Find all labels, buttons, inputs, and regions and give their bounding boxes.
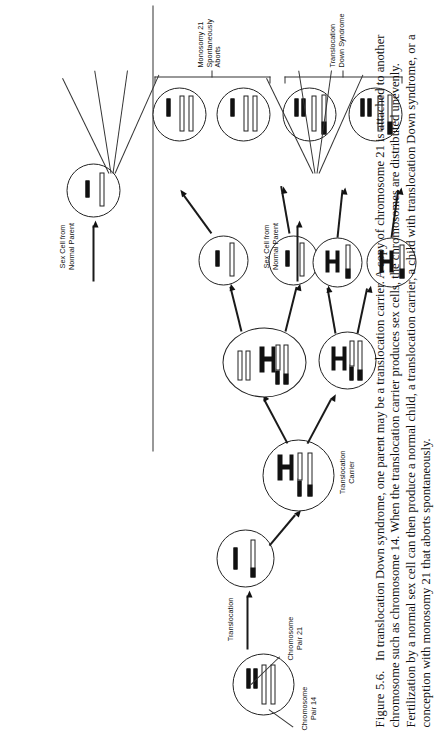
ztd2-chromosome-21a: [360, 98, 364, 116]
figure-diagram: Chromosome Pair 14 Chromosome Pair 21 Tr…: [0, 0, 372, 733]
ztd1-chromosome-14a: [311, 95, 316, 131]
translocated-chromosome-meiosis-lower: [331, 346, 346, 370]
ztd2-chromosome-21b: [367, 98, 371, 116]
arrow-to-carrier-line: [268, 514, 295, 546]
carrier-branch-lower-line: [306, 398, 331, 443]
gamete2-line: [284, 286, 297, 331]
chromosome-14c-upper: [237, 350, 242, 380]
translocation-arrow-line: [246, 595, 248, 649]
zygote-u3-head: [341, 187, 348, 195]
figure-caption-text: In translocation Down syndrome, one pare…: [372, 34, 432, 727]
label-translocation: Translocation: [226, 587, 235, 651]
brace-monosomy: [154, 69, 270, 83]
normal-gamete-upper-arrowhead: [92, 220, 98, 227]
zm2-chromosome-14b: [252, 95, 257, 131]
translocation-carrier-cell: [262, 439, 334, 511]
meiosis-upper-cell: [222, 327, 306, 397]
label-translocation-carrier: Translocation Carrier: [338, 435, 355, 509]
gamete-3: [312, 237, 362, 287]
zm2-chromosome-21: [230, 98, 234, 116]
meiosis-lower-cell: [318, 331, 376, 389]
chromosome-14b-lower: [349, 340, 354, 366]
chromosome-14d-upper: [245, 350, 250, 380]
book-page: Chromosome Pair 14 Chromosome Pair 21 Tr…: [0, 0, 439, 733]
gamete3-chromosome-14: [345, 244, 350, 278]
zygote-u3-line: [336, 189, 343, 237]
gamete1-line: [229, 286, 242, 331]
zygote-u2-head: [280, 186, 287, 194]
ztd1-chromosome-21b: [301, 98, 305, 116]
chromosome-14-lower: [357, 340, 362, 380]
translocated-chromosome-14-21: [277, 454, 293, 480]
gamete2-chromosome-14: [299, 242, 304, 276]
zygote-monosomy-1: [152, 87, 206, 141]
gamete3-translocated-chromosome: [325, 250, 339, 272]
zygote-u1-line: [182, 194, 212, 234]
ztd1-chromosome-14b: [321, 94, 326, 134]
zygote-trans-down-1: [282, 87, 336, 141]
gamete1-chromosome-21: [215, 250, 219, 266]
normal-gamete-lower-arrow-line: [296, 225, 298, 281]
figure-number: Figure 5.6.: [372, 670, 386, 727]
label-chromosome-pair-14: Chromosome Pair 14: [300, 675, 317, 733]
translocation-event-cell: [216, 529, 274, 587]
translocation-arrowhead: [246, 590, 252, 597]
normal-gamete-lower-arrowhead: [296, 220, 302, 227]
normal-gamete-upper-chromosome-14: [99, 172, 104, 206]
chromosome-21-single: [297, 478, 301, 496]
normal-gamete-upper-chromosome-21: [85, 180, 89, 197]
gamete1-chromosome-14: [229, 242, 234, 276]
normal-parent-cell: [232, 653, 294, 715]
gamete2-chromosome-21: [285, 250, 289, 266]
fan-upper-3: [112, 70, 127, 173]
figure-caption: Figure 5.6. In translocation Down syndro…: [372, 3, 434, 727]
label-sex-cell-normal-parent-upper: Sex Cell from Normal Parent: [58, 211, 75, 281]
chromosome-14-partner: [297, 452, 302, 480]
chromosome-14-intact: [250, 539, 255, 577]
chromosome-14-normal: [307, 452, 312, 496]
chromosome-21a: [246, 668, 250, 688]
gamete3-line: [326, 288, 336, 334]
leader-pair-14: [268, 709, 293, 727]
zygote-monosomy-2: [216, 87, 270, 141]
translocated-chromosome-meiosis-upper: [259, 346, 275, 372]
label-monosomy-21: Monosomy 21 Spontaneously Aborts: [196, 3, 222, 67]
zm2-chromosome-14a: [243, 95, 248, 131]
panel-divider: [152, 5, 153, 451]
ztd1-chromosome-21a: [294, 98, 298, 116]
chromosome-14b: [270, 664, 275, 704]
normal-gamete-upper-arrow-line: [92, 225, 94, 281]
gamete4-line: [356, 288, 367, 333]
chromosome-14-upper: [283, 344, 288, 384]
label-sex-cell-normal-parent-lower: Sex Cell from Normal Parent: [262, 211, 279, 281]
zm1-chromosome-21: [166, 98, 170, 116]
gamete-1: [198, 235, 248, 285]
carrier-branch-upper-line: [263, 398, 288, 443]
label-translocation-down-syndrome: Translocation Down Syndrome: [328, 3, 345, 67]
chromosome-14b-upper: [275, 344, 280, 370]
fan-upper-1: [62, 78, 109, 174]
chromosome-21-translocated: [233, 547, 237, 569]
zm1-chromosome-14a: [179, 95, 184, 131]
fan-upper-2: [94, 70, 111, 173]
zm1-chromosome-14b: [188, 95, 193, 131]
label-chromosome-pair-21: Chromosome Pair 21: [286, 605, 303, 671]
